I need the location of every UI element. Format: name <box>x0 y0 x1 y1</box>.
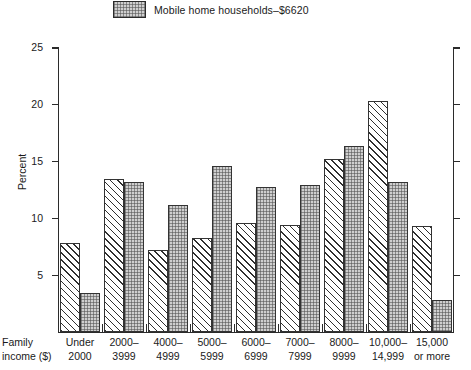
bar-6-series-2 <box>300 185 320 332</box>
x-category-label-6-line2: 7999 <box>278 350 322 364</box>
group-separator-9 <box>453 324 454 333</box>
x-category-label-2-line1: 2000– <box>102 336 146 350</box>
x-category-label-5-line2: 6999 <box>234 350 278 364</box>
x-category-label-7-line1: 8000– <box>322 336 366 350</box>
x-category-label-3: 4000–4999 <box>146 336 190 368</box>
legend-label: Mobile home households–$6620 <box>154 4 309 16</box>
bar-8-series-1 <box>368 101 388 332</box>
x-category-label-5-line1: 6000– <box>234 336 278 350</box>
x-category-label-8-line2: 14,999 <box>366 350 410 364</box>
x-category-label-7-line2: 9999 <box>322 350 366 364</box>
x-category-label-4-line1: 5000– <box>190 336 234 350</box>
bar-8-series-2 <box>388 182 408 332</box>
group-separator-0 <box>58 324 59 333</box>
axis-cap-right <box>453 48 454 53</box>
bar-group-1 <box>58 48 102 332</box>
x-category-label-1-line2: 2000 <box>58 350 102 364</box>
x-category-label-8: 10,000–14,999 <box>366 336 410 368</box>
x-category-label-5: 6000–6999 <box>234 336 278 368</box>
bar-5-series-2 <box>256 187 276 332</box>
x-axis-title-line1: Family <box>2 336 52 350</box>
x-axis-title-line2: income ($) <box>2 350 52 364</box>
bar-3-series-2 <box>168 205 188 332</box>
y-tick-label-15: 15 <box>31 155 43 167</box>
bar-9-series-1 <box>412 226 432 332</box>
bar-group-7 <box>322 48 366 332</box>
legend: Mobile home households–$6620 <box>113 1 309 18</box>
group-separator-6 <box>322 324 323 333</box>
y-tick-label-10: 10 <box>31 212 43 224</box>
bar-group-8 <box>366 48 410 332</box>
bar-group-3 <box>146 48 190 332</box>
bar-7-series-2 <box>344 146 364 332</box>
bar-6-series-1 <box>280 225 300 332</box>
x-category-label-1: Under2000 <box>58 336 102 368</box>
group-separator-3 <box>190 324 191 333</box>
y-tick-right-10 <box>453 218 460 219</box>
x-category-label-7: 8000–9999 <box>322 336 366 368</box>
bar-4-series-2 <box>212 166 232 332</box>
x-axis-title: Family income ($) <box>2 336 52 363</box>
x-category-label-4-line2: 5999 <box>190 350 234 364</box>
bar-5-series-1 <box>236 223 256 332</box>
bar-7-series-1 <box>324 159 344 332</box>
bar-group-2 <box>102 48 146 332</box>
x-category-label-9: 15,000or more <box>410 336 454 368</box>
bar-group-9 <box>410 48 454 332</box>
x-category-label-2-line2: 3999 <box>102 350 146 364</box>
x-category-label-6-line1: 7000– <box>278 336 322 350</box>
y-tick-label-5: 5 <box>37 269 43 281</box>
bar-groups <box>58 48 454 332</box>
x-category-label-9-line2: or more <box>410 350 454 364</box>
x-axis-category-labels: Under20002000–39994000–49995000–59996000… <box>58 336 454 368</box>
x-category-label-6: 7000–7999 <box>278 336 322 368</box>
axis-cap-left <box>58 48 59 53</box>
bar-2-series-1 <box>104 179 124 332</box>
legend-swatch-icon <box>113 1 146 18</box>
x-category-label-4: 5000–5999 <box>190 336 234 368</box>
bar-2-series-2 <box>124 182 144 332</box>
group-separator-2 <box>146 324 147 333</box>
x-category-label-2: 2000–3999 <box>102 336 146 368</box>
x-category-label-3-line2: 4999 <box>146 350 190 364</box>
x-category-label-9-line1: 15,000 <box>410 336 454 350</box>
group-separator-5 <box>278 324 279 333</box>
bar-1-series-1 <box>60 243 80 332</box>
x-category-label-3-line1: 4000– <box>146 336 190 350</box>
bar-4-series-1 <box>192 238 212 332</box>
bar-3-series-1 <box>148 250 168 332</box>
group-separator-1 <box>102 324 103 333</box>
bar-group-5 <box>234 48 278 332</box>
bar-group-6 <box>278 48 322 332</box>
y-tick-right-5 <box>453 275 460 276</box>
group-separator-7 <box>366 324 367 333</box>
bar-9-series-2 <box>432 300 452 332</box>
y-tick-right-20 <box>453 104 460 105</box>
y-tick-right-15 <box>453 161 460 162</box>
group-separator-8 <box>410 324 411 333</box>
bar-1-series-2 <box>80 293 100 332</box>
x-category-label-1-line1: Under <box>58 336 102 350</box>
y-tick-label-20: 20 <box>31 98 43 110</box>
x-category-label-8-line1: 10,000– <box>366 336 410 350</box>
y-tick-label-25: 25 <box>31 41 43 53</box>
chart-plot-area: 510152025 <box>58 48 454 333</box>
y-axis-title: Percent <box>16 154 28 190</box>
group-separator-4 <box>234 324 235 333</box>
y-tick-right-25 <box>453 47 460 48</box>
bar-group-4 <box>190 48 234 332</box>
